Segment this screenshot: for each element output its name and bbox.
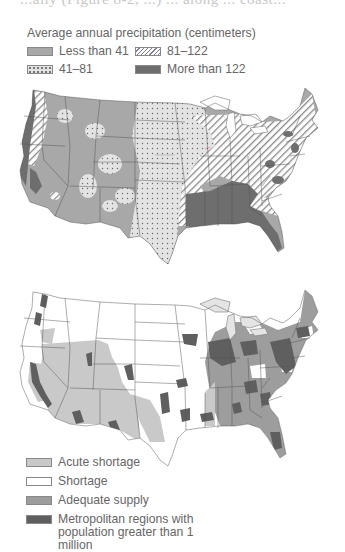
legend-label: Shortage (58, 475, 107, 488)
legend-label: Metropolitan regions with population gre… (58, 513, 208, 552)
swatch-hatch-icon (135, 47, 161, 56)
clipped-header-text: ...ally (Figure 8-2, ...) ... along ... … (20, 0, 286, 8)
precipitation-legend-title: Average annual precipitation (centimeter… (27, 26, 327, 40)
legend-label: Less than 41 (59, 44, 129, 58)
legend-item-acute-shortage: Acute shortage (26, 456, 326, 469)
legend-item-metropolitan-regions: Metropolitan regions with population gre… (26, 513, 326, 552)
precipitation-legend: Average annual precipitation (centimeter… (27, 26, 327, 76)
legend-label: 41–81 (59, 62, 93, 76)
legend-item-41-81: 41–81 (27, 62, 135, 76)
water-supply-legend: Acute shortage Shortage Adequate supply … (26, 456, 326, 552)
swatch-dark-icon (135, 65, 161, 74)
swatch-gray-icon (27, 47, 53, 56)
legend-item-adequate-supply: Adequate supply (26, 494, 326, 507)
precipitation-map (0, 76, 345, 276)
legend-label: More than 122 (167, 62, 246, 76)
legend-label: 81–122 (167, 44, 208, 58)
legend-label: Acute shortage (58, 456, 140, 469)
swatch-medium-gray-icon (26, 496, 52, 505)
swatch-dotted-icon (27, 65, 53, 74)
swatch-light-gray-icon (26, 458, 52, 467)
water-supply-map (0, 282, 345, 482)
legend-item-more-than-122: More than 122 (135, 62, 295, 76)
legend-item-81-122: 81–122 (135, 44, 295, 58)
swatch-dark-gray-icon (26, 515, 52, 524)
swatch-white-icon (26, 477, 52, 486)
legend-item-shortage: Shortage (26, 475, 326, 488)
legend-label: Adequate supply (58, 494, 149, 507)
legend-item-less-than-41: Less than 41 (27, 44, 135, 58)
